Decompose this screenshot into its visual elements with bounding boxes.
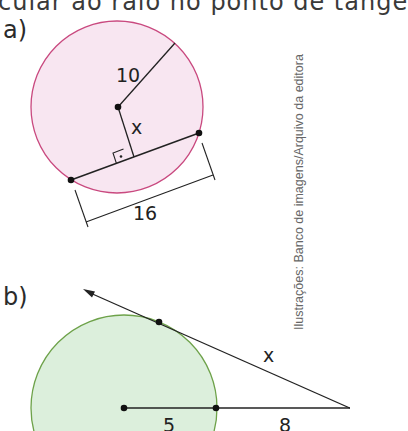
dimension-tick-right: [202, 143, 215, 180]
chord-endpoint-right: [196, 130, 203, 137]
center-point-a: [115, 104, 122, 111]
image-credit: Ilustrações: Banco de imagens/Arquivo da…: [292, 54, 306, 330]
distance-value-a: x: [131, 116, 142, 138]
chord-endpoint-left: [68, 177, 75, 184]
external-value-b: 8: [279, 414, 291, 431]
center-point-b: [121, 405, 128, 412]
arrow-head-icon: [83, 289, 95, 298]
tangent-point: [156, 319, 163, 326]
circle-b: [31, 315, 217, 431]
radius-value-a: 10: [116, 64, 140, 86]
tangent-value-b: x: [263, 344, 274, 366]
figure-a: 10 x 16: [31, 21, 215, 227]
right-angle-dot: [120, 155, 123, 158]
radius-value-b: 5: [163, 414, 175, 431]
circle-intersection-point: [213, 405, 220, 412]
chord-value-a: 16: [133, 202, 157, 224]
